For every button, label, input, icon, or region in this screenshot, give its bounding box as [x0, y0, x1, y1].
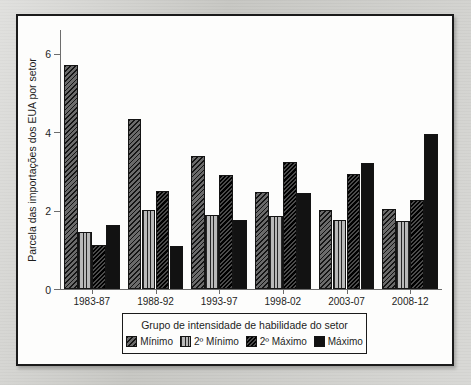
legend-swatch-vertical-lines-icon: [180, 336, 191, 347]
x-axis-tick-label: 1998-02: [264, 296, 301, 307]
legend-entry: Mínimo: [126, 336, 173, 347]
legend-title: Grupo de intensidade de habilidade do se…: [130, 319, 359, 331]
bar-1983-87-m-ximo: [106, 225, 120, 289]
bar-2008-12-2-m-nimo: [396, 221, 410, 289]
bar-1983-87-2-m-ximo: [92, 245, 106, 289]
bar-2003-07-2-m-nimo: [333, 220, 347, 289]
x-axis-tick-label: 2003-07: [328, 296, 365, 307]
x-axis-tick: [410, 289, 411, 294]
bar-2008-12-m-nimo: [382, 209, 396, 289]
plot-area: Parcela das importações dos EUA por seto…: [18, 16, 452, 364]
bar-1998-02-2-m-nimo: [269, 216, 283, 289]
y-axis-title: Parcela das importações dos EUA por seto…: [24, 30, 40, 290]
x-axis-tick: [219, 289, 220, 294]
y-axis-title-label: Parcela das importações dos EUA por seto…: [26, 58, 38, 262]
y-axis-tick-label: 6: [45, 48, 51, 60]
legend-label: 2º Mínimo: [194, 336, 239, 347]
bar-1993-97-m-nimo: [191, 156, 205, 289]
x-axis-tick: [283, 289, 284, 294]
bar-1998-02-m-nimo: [255, 192, 269, 289]
x-axis-tick: [156, 289, 157, 294]
bar-1998-02-m-ximo: [297, 193, 311, 289]
bar-1993-97-m-ximo: [233, 220, 247, 289]
legend-label: Mínimo: [140, 336, 173, 347]
bar-1988-92-m-nimo: [128, 119, 142, 289]
x-axis-tick-label: 1988-92: [137, 296, 174, 307]
legend-swatch-diagonal-hatch-icon: [126, 336, 137, 347]
legend-swatch-dense-dark-hatch-icon: [246, 336, 257, 347]
bar-1988-92-2-m-ximo: [156, 191, 170, 289]
legend-label: Máximo: [328, 336, 363, 347]
bar-1988-92-2-m-nimo: [142, 210, 156, 289]
bar-2008-12-m-ximo: [424, 134, 438, 289]
x-axis-tick-label: 1983-87: [73, 296, 110, 307]
x-axis-tick: [347, 289, 348, 294]
y-axis-tick-label: 2: [45, 205, 51, 217]
bar-2003-07-m-nimo: [319, 210, 333, 289]
y-axis-tick-label: 0: [45, 284, 51, 296]
bar-2003-07-m-ximo: [361, 163, 375, 289]
y-axis-tick: 0: [54, 289, 60, 290]
legend-entry-list: Mínimo2º Mínimo2º MáximoMáximo: [130, 336, 359, 347]
y-axis-tick-label: 4: [45, 127, 51, 139]
bar-1993-97-2-m-ximo: [219, 175, 233, 289]
chart-legend: Grupo de intensidade de habilidade do se…: [122, 313, 367, 354]
legend-swatch-solid-icon: [314, 336, 325, 347]
bar-2008-12-2-m-ximo: [410, 200, 424, 289]
bar-1988-92-m-ximo: [170, 246, 184, 289]
bar-1993-97-2-m-nimo: [205, 215, 219, 289]
legend-label: 2º Máximo: [260, 336, 307, 347]
legend-entry: 2º Máximo: [246, 336, 307, 347]
figure-panel: Parcela das importações dos EUA por seto…: [16, 14, 454, 366]
bar-series-layer: [60, 30, 442, 289]
x-axis-line: [60, 289, 442, 290]
x-axis-tick-label: 1993-97: [201, 296, 238, 307]
bar-2003-07-2-m-ximo: [347, 174, 361, 289]
bar-1983-87-m-nimo: [64, 65, 78, 289]
bar-1983-87-2-m-nimo: [78, 232, 92, 289]
x-axis-tick: [92, 289, 93, 294]
bar-1998-02-2-m-ximo: [283, 162, 297, 289]
legend-entry: Máximo: [314, 336, 363, 347]
x-axis-tick-label: 2008-12: [392, 296, 429, 307]
legend-entry: 2º Mínimo: [180, 336, 239, 347]
